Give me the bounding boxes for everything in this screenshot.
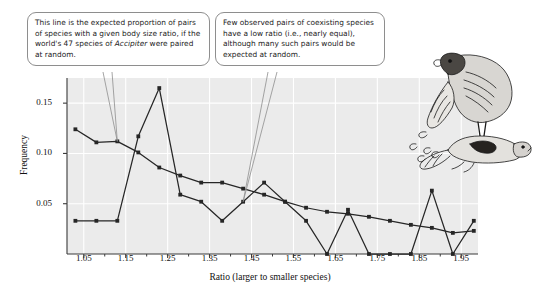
y-axis-title: Frequency (19, 115, 29, 195)
callout-observed: Few observed pairs of coexisting species… (215, 12, 385, 66)
accipiter-hawk-with-prey-illustration (404, 52, 532, 182)
figure-container: 0.050.100.15 1.051.151.251.351.451.551.6… (0, 0, 534, 295)
callout-expected: This line is the expected proportion of … (27, 12, 210, 66)
callout-observed-text: Few observed pairs of coexisting species… (223, 18, 374, 59)
callout-expected-genus: Accipiter (115, 39, 147, 48)
x-axis-title: Ratio (larger to smaller species) (130, 272, 410, 282)
